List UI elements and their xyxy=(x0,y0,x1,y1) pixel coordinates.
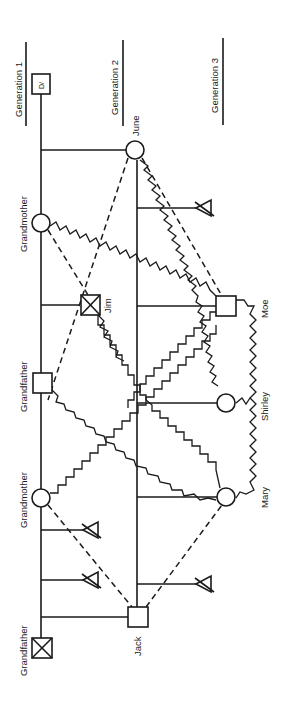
generation-2-label-group: Generation 2 xyxy=(109,40,123,126)
miscarriage-1 xyxy=(82,522,101,538)
jack-label: Jack xyxy=(132,636,143,656)
grandfather-maternal-label: Grandfather xyxy=(18,625,29,676)
jack-male-box xyxy=(128,607,148,627)
miscarriage-3 xyxy=(195,200,214,216)
person-grandmother-maternal: Grandmother xyxy=(18,472,50,528)
shirley-female-circle xyxy=(217,394,235,412)
jim-label: Jim xyxy=(102,298,113,313)
shirley-label: Shirley xyxy=(259,392,270,421)
conflict-line-june-jim xyxy=(98,315,124,361)
generation-3-label: Generation 3 xyxy=(209,58,220,113)
conflict-line-moe-grandfather xyxy=(128,312,216,408)
person-grandfather-maternal: Grandfather xyxy=(18,625,52,676)
person-shirley: Shirley xyxy=(217,392,270,421)
moe-male-box xyxy=(216,296,236,316)
person-grandfather-paternal: Grandfather xyxy=(18,361,52,412)
june-label: June xyxy=(130,115,141,136)
person-divorced-marker: D/ xyxy=(32,74,50,94)
grandmother-paternal-label: Grandmother xyxy=(18,196,29,252)
distant-line-june-grandfather xyxy=(48,158,128,400)
grandfather-paternal-male-box xyxy=(33,373,52,393)
person-grandmother-paternal: Grandmother xyxy=(18,196,50,252)
conflict-line-june-mary xyxy=(140,160,218,386)
generation-3-label-group: Generation 3 xyxy=(209,38,223,125)
person-moe: Moe xyxy=(216,296,270,318)
june-female-circle xyxy=(126,141,144,159)
person-mary: Mary xyxy=(217,487,270,508)
conflict-line-grandmother-moe xyxy=(50,222,216,296)
generation-2-label: Generation 2 xyxy=(109,60,120,115)
miscarriage-4 xyxy=(195,576,214,592)
distant-line-grandmother-jim xyxy=(48,230,88,295)
grandmother-maternal-female-circle xyxy=(32,489,50,507)
generation-1-label-group: Generation 1 xyxy=(13,42,26,126)
genogram-diagram: Generation 1 Generation 2 Generation 3 D… xyxy=(0,0,287,705)
generation-1-label: Generation 1 xyxy=(13,62,24,117)
mary-female-circle xyxy=(217,488,235,506)
distant-line-june-moe xyxy=(142,158,222,296)
moe-label: Moe xyxy=(259,300,270,318)
miscarriage-2 xyxy=(82,572,101,588)
person-june: June xyxy=(126,115,144,159)
conflict-line-moe-mary xyxy=(236,300,256,498)
conflict-line-grandmother-shirley xyxy=(50,325,216,493)
grandfather-paternal-label: Grandfather xyxy=(18,361,29,412)
person-jim: Jim xyxy=(81,295,113,315)
distant-line-grandmother-jack xyxy=(48,505,132,607)
mary-label: Mary xyxy=(259,487,270,508)
person-jack: Jack xyxy=(128,607,148,656)
conflict-line-shirley-moe xyxy=(236,398,250,404)
grandmother-paternal-female-circle xyxy=(32,214,50,232)
divorced-marker-label: D/ xyxy=(38,82,45,89)
grandmother-maternal-label: Grandmother xyxy=(18,472,29,528)
